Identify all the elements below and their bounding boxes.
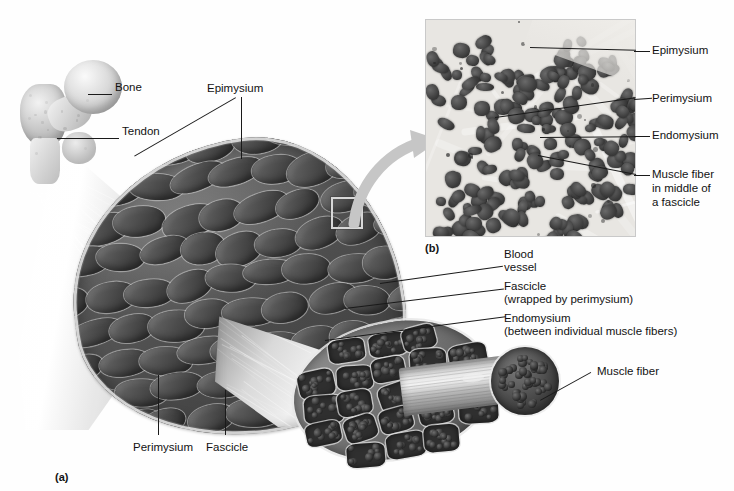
micrograph-nucleus [601, 219, 605, 223]
micrograph-nucleus [534, 105, 538, 109]
bone-surface-detail [41, 121, 43, 123]
muscle-fiber-cut-end [491, 347, 559, 415]
label-blood-vessel-line2: vessel [504, 261, 537, 275]
muscle-fiber-cell [337, 365, 375, 391]
leader-epimysium-vertical [241, 97, 242, 159]
myofibril-dot [450, 441, 457, 448]
leader-muscle-fiber-b [634, 175, 650, 176]
micrograph-nucleus [588, 214, 592, 218]
micrograph-nucleus [537, 233, 541, 237]
myofibril-dot [512, 392, 521, 401]
muscle-fiber-cell [346, 442, 386, 469]
bone-surface-detail [86, 99, 89, 102]
myofibril-dot [298, 374, 306, 382]
bone-surface-detail [76, 119, 79, 122]
histology-micrograph [425, 19, 636, 237]
myofibril-dot [348, 446, 354, 452]
bone-surface-detail [34, 114, 36, 116]
micrograph-nucleus [432, 47, 436, 51]
micrograph-nucleus [433, 62, 436, 65]
label-fascicle-wrapped-line1: Fascicle [504, 280, 546, 294]
myofibril-dot [418, 446, 424, 452]
micrograph-muscle-fiber [452, 70, 462, 80]
myofibril-dot [325, 377, 332, 384]
myofibril-dot [374, 453, 382, 461]
myofibril-dot [429, 442, 436, 449]
fascicle-tile [97, 243, 146, 270]
connective-tissue-septum [425, 19, 442, 24]
myofibril-dot [343, 371, 350, 378]
leader-perimysium [158, 375, 159, 435]
myofibril-dot [443, 441, 451, 449]
myofibril-dot [486, 414, 491, 419]
fascicle-tile [112, 204, 167, 240]
micrograph-nucleus [468, 153, 473, 158]
myofibril-dot [354, 381, 360, 387]
micrograph-nucleus [518, 21, 520, 23]
muscle-anatomy-figure: Bone Epimysium Tendon Perimysium Fascicl… [0, 0, 734, 491]
myofibril-dot [411, 352, 418, 359]
label-bone: Bone [115, 81, 142, 95]
myofibril-dot [351, 408, 357, 414]
micrograph-nucleus [591, 83, 595, 87]
bone-surface-detail [63, 127, 66, 130]
label-endomysium-between-line1: Endomysium [504, 312, 570, 326]
micrograph-nucleus [517, 223, 520, 226]
myofibril-dot [409, 444, 417, 452]
fiber-nucleus [462, 372, 485, 384]
micrograph-muscle-fiber [475, 126, 485, 142]
myofibril-dot [402, 418, 410, 426]
myofibril-dot [317, 409, 323, 415]
myofibril-dot [308, 437, 314, 443]
micrograph-nucleus [593, 147, 598, 152]
micrograph-muscle-fiber [518, 76, 538, 93]
myofibril-dot [544, 383, 552, 391]
muscle-fiber-cell [327, 337, 366, 365]
micrograph-nucleus [446, 153, 450, 157]
label-fascicle-wrapped-line2: (wrapped by perimysium) [504, 293, 633, 307]
fascicle-tile [272, 183, 323, 223]
label-epimysium-a: Epimysium [207, 82, 263, 96]
myofibril-dot [394, 356, 402, 364]
myofibril-dot [417, 343, 423, 349]
myofibril-dot [326, 371, 332, 377]
micrograph-nucleus [542, 128, 545, 131]
myofibril-dot [489, 405, 497, 413]
femoral-head [64, 60, 122, 114]
micrograph-muscle-fiber [465, 54, 480, 67]
myofibril-dot [365, 453, 373, 461]
myofibril-dot [508, 381, 514, 387]
label-muscle-fiber-a: Muscle fiber [597, 365, 659, 379]
micrograph-nucleus [607, 200, 610, 203]
bone-surface-detail [45, 101, 48, 104]
bone-surface-detail [77, 114, 80, 117]
label-perimysium-a: Perimysium [133, 441, 193, 455]
muscle-fiber-cell [385, 430, 427, 461]
caption-panel-b: (b) [425, 242, 439, 256]
micrograph-nucleus [460, 67, 463, 70]
myofibril-dot [528, 400, 536, 408]
micrograph-muscle-fiber [474, 100, 491, 116]
myofibril-dot [370, 346, 377, 353]
muscle-fiber-cell [423, 423, 460, 453]
leader-endomysium-b [634, 136, 650, 137]
micrograph-nucleus [591, 183, 596, 188]
caption-panel-a: (a) [55, 471, 68, 485]
myofibril-dot [539, 366, 547, 374]
label-muscle-fiber-b: Muscle fiber [652, 168, 714, 182]
micrograph-nucleus [577, 114, 582, 119]
fascicle-tile [282, 253, 332, 285]
myofibril-dot [464, 413, 472, 421]
myofibril-dot [470, 347, 476, 353]
myofibril-dot [390, 347, 396, 353]
bone-surface-detail [35, 152, 38, 155]
micrograph-nucleus [501, 91, 504, 94]
micrograph-muscle-fiber [481, 52, 497, 67]
label-perimysium-b: Perimysium [652, 92, 712, 106]
label-epimysium-b: Epimysium [652, 44, 708, 58]
micrograph-muscle-fiber [543, 137, 557, 149]
label-endomysium-b: Endomysium [652, 129, 718, 143]
leader-bone [88, 94, 112, 95]
label-tendon: Tendon [122, 125, 160, 139]
leader-perimysium-b [634, 98, 652, 100]
